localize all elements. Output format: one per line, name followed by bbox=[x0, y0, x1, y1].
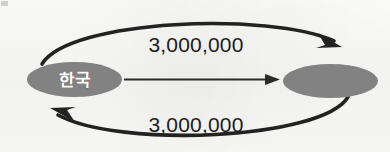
edge-middle-group bbox=[124, 74, 280, 85]
flow-diagram-graphic: 한국 3,000,000 3,000,000 bbox=[0, 0, 390, 152]
edge-top-arrowhead bbox=[316, 33, 342, 48]
edge-bottom-value-label: 3,000,000 bbox=[148, 113, 243, 136]
node-korea[interactable]: 한국 bbox=[27, 62, 122, 97]
node-korea-label: 한국 bbox=[59, 70, 91, 90]
edge-middle-arrowhead bbox=[265, 74, 280, 85]
diagram-canvas: 한국 3,000,000 3,000,000 bbox=[0, 0, 390, 152]
node-partner[interactable] bbox=[283, 64, 378, 98]
edge-top-value-label: 3,000,000 bbox=[148, 33, 243, 56]
edge-bottom-arrowhead bbox=[50, 107, 76, 122]
node-partner-shape bbox=[283, 64, 378, 98]
